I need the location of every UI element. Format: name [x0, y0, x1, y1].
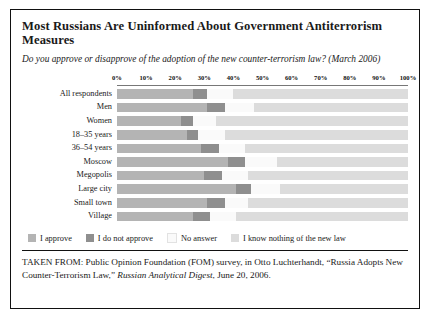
bar-segment: [117, 171, 204, 181]
bar-segment: [193, 212, 210, 222]
stacked-bar: [117, 157, 408, 167]
bar-segment: [193, 89, 208, 99]
stacked-bar: [117, 212, 408, 222]
bar-row-label: Men: [22, 103, 117, 111]
chart-subtitle: Do you approve or disapprove of the adop…: [22, 54, 408, 65]
bar-segment: [233, 89, 408, 99]
bar-row: 18–35 years: [22, 128, 408, 142]
x-tick-label: 10%: [140, 74, 153, 81]
source-italic-title: Russian Analytical Digest: [117, 270, 212, 280]
legend-label: I approve: [40, 234, 72, 243]
stacked-bar: [117, 116, 408, 126]
bar-segment: [117, 103, 207, 113]
stacked-bar: [117, 89, 408, 99]
bar-segment: [225, 198, 248, 208]
bar-segment: [216, 116, 408, 126]
bar-segment: [228, 157, 245, 167]
bar-segment: [117, 89, 193, 99]
source-citation: TAKEN FROM: Public Opinion Foundation (F…: [22, 256, 408, 281]
bar-segment: [280, 184, 408, 194]
stacked-bar: [117, 103, 408, 113]
bar-segment: [219, 144, 245, 154]
bar-segment: [248, 171, 408, 181]
bar-segment: [210, 212, 236, 222]
x-tick-label: 50%: [256, 74, 269, 81]
bar-row-label: Large city: [22, 185, 117, 193]
x-tick-label: 40%: [227, 74, 240, 81]
chart-legend: I approveI do not approveNo answerI know…: [22, 233, 408, 243]
bar-segment: [222, 171, 248, 181]
bar-segment: [193, 116, 216, 126]
chart-frame: Most Russians Are Uninformed About Gover…: [10, 9, 420, 309]
bar-segment: [117, 116, 181, 126]
bar-segment: [207, 198, 224, 208]
bar-row: Small town: [22, 196, 408, 210]
x-tick-label: 30%: [198, 74, 211, 81]
stacked-bar: [117, 198, 408, 208]
legend-item: I approve: [28, 234, 72, 243]
bar-row: Village: [22, 210, 408, 224]
bar-segment: [187, 130, 199, 140]
bar-row-label: 36–54 years: [22, 144, 117, 152]
bar-rows: All respondentsMenWomen18–35 years36–54 …: [22, 87, 408, 223]
bar-row: Megopolis: [22, 169, 408, 183]
bar-segment: [201, 144, 218, 154]
legend-item: I do not approve: [86, 234, 153, 243]
stacked-bar: [117, 130, 408, 140]
stacked-bar: [117, 144, 408, 154]
bar-segment: [207, 103, 224, 113]
bar-row-label: Moscow: [22, 158, 117, 166]
x-tick-label: 70%: [314, 74, 327, 81]
bar-row-label: Women: [22, 117, 117, 125]
legend-label: I know nothing of the new law: [243, 234, 346, 243]
bar-segment: [245, 157, 277, 167]
bar-row-label: Megopolis: [22, 171, 117, 179]
legend-label: I do not approve: [98, 234, 153, 243]
bar-segment: [248, 198, 408, 208]
x-tick-label: 90%: [372, 74, 385, 81]
bar-row: 36–54 years: [22, 142, 408, 156]
bar-segment: [225, 130, 408, 140]
bar-segment: [117, 130, 187, 140]
bar-segment: [117, 144, 201, 154]
x-tick-label: 20%: [169, 74, 182, 81]
bar-segment: [117, 157, 228, 167]
bar-segment: [245, 144, 408, 154]
legend-label: No answer: [181, 234, 217, 243]
bar-row: Large city: [22, 182, 408, 196]
legend-swatch: [167, 233, 177, 243]
x-tick-label: 80%: [343, 74, 356, 81]
x-tick-label: 60%: [285, 74, 298, 81]
x-axis-ticks: 0%10%20%30%40%50%60%70%80%90%100%: [117, 74, 408, 85]
plot-area: 0%10%20%30%40%50%60%70%80%90%100% All re…: [22, 74, 408, 224]
chart-title: Most Russians Are Uninformed About Gover…: [22, 19, 408, 48]
legend-swatch: [28, 234, 36, 242]
bar-segment: [117, 184, 236, 194]
bar-row: Women: [22, 114, 408, 128]
bar-segment: [236, 212, 408, 222]
bar-segment: [225, 103, 254, 113]
bar-row-label: Village: [22, 212, 117, 220]
bar-segment: [277, 157, 408, 167]
bar-row-label: Small town: [22, 199, 117, 207]
bar-segment: [236, 184, 251, 194]
bar-row: Moscow: [22, 155, 408, 169]
bar-segment: [181, 116, 193, 126]
bar-segment: [198, 130, 224, 140]
bar-row: All respondents: [22, 87, 408, 101]
x-tick-label: 100%: [400, 74, 416, 81]
bar-segment: [207, 89, 233, 99]
bar-segment: [117, 212, 193, 222]
bar-row: Men: [22, 101, 408, 115]
bar-row-label: All respondents: [22, 90, 117, 98]
bar-row-label: 18–35 years: [22, 131, 117, 139]
legend-swatch: [231, 234, 239, 242]
bar-segment: [204, 171, 221, 181]
stacked-bar: [117, 171, 408, 181]
bar-segment: [117, 198, 207, 208]
x-tick-label: 0%: [112, 74, 122, 81]
bar-segment: [254, 103, 408, 113]
x-axis-line: [117, 85, 408, 86]
legend-item: I know nothing of the new law: [231, 234, 346, 243]
divider: [22, 250, 408, 251]
